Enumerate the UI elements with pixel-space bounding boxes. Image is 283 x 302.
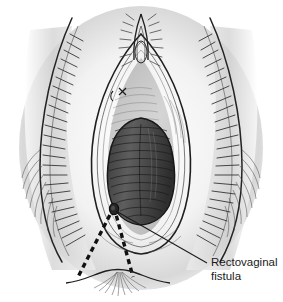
- medical-illustration-figure: Rectovaginal fistula: [0, 0, 283, 302]
- callout-label-line1: Rectovaginal: [211, 256, 277, 268]
- callout-label-line2: fistula: [211, 270, 242, 282]
- illustration-canvas: Rectovaginal fistula: [0, 0, 283, 302]
- fistula-opening: [109, 203, 118, 215]
